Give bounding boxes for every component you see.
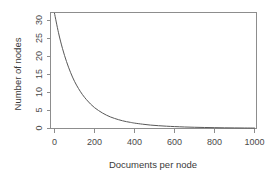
y-axis-tick-labels: 0 5 10 15 20 25 30 (34, 15, 44, 131)
chart-figure: 0 5 10 15 20 25 30 Number of nodes 0 200… (0, 0, 276, 181)
x-axis-title: Documents per node (109, 159, 197, 170)
x-tick-label-600: 600 (167, 137, 182, 147)
x-tick-label-200: 200 (87, 137, 102, 147)
x-tick-label-800: 800 (207, 137, 222, 147)
x-tick-label-1000: 1000 (244, 137, 264, 147)
chart-plot-area: 0 5 10 15 20 25 30 Number of nodes 0 200… (0, 0, 276, 181)
y-tick-label-25: 25 (34, 33, 44, 43)
decay-curve (55, 13, 255, 128)
y-axis-title: Number of nodes (12, 37, 23, 110)
y-tick-label-0: 0 (34, 125, 44, 130)
plot-frame (51, 13, 257, 129)
x-tick-label-0: 0 (52, 137, 57, 147)
x-tick-label-400: 400 (127, 137, 142, 147)
y-axis-ticks (47, 21, 51, 129)
x-axis-ticks (55, 129, 255, 133)
y-tick-label-30: 30 (34, 15, 44, 25)
y-tick-label-10: 10 (34, 87, 44, 97)
y-tick-label-20: 20 (34, 51, 44, 61)
y-tick-label-15: 15 (34, 69, 44, 79)
x-axis-tick-labels: 0 200 400 600 800 1000 (52, 137, 265, 147)
y-tick-label-5: 5 (34, 107, 44, 112)
